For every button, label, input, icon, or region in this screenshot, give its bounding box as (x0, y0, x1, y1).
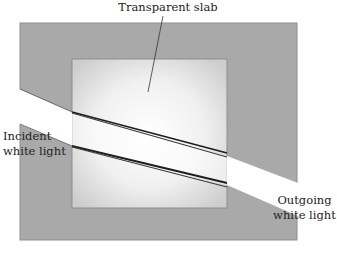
incident-light-label: Incident white light (3, 129, 73, 159)
outgoing-label-line1: Outgoing (272, 193, 337, 208)
incident-label-line2: white light (3, 144, 73, 159)
outgoing-light-label: Outgoing white light (272, 193, 337, 223)
slab-label: Transparent slab (118, 0, 218, 15)
slab-label-text: Transparent slab (118, 0, 218, 15)
outgoing-label-line2: white light (272, 208, 337, 223)
incident-label-line1: Incident (3, 129, 73, 144)
